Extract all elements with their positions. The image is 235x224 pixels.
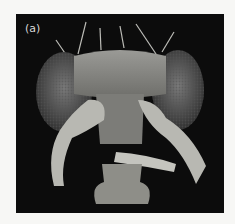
- proboscis: [94, 164, 150, 204]
- sem-image-panel: (a): [16, 14, 224, 213]
- head-capsule: [74, 50, 166, 98]
- fly-head-illustration: [16, 14, 224, 213]
